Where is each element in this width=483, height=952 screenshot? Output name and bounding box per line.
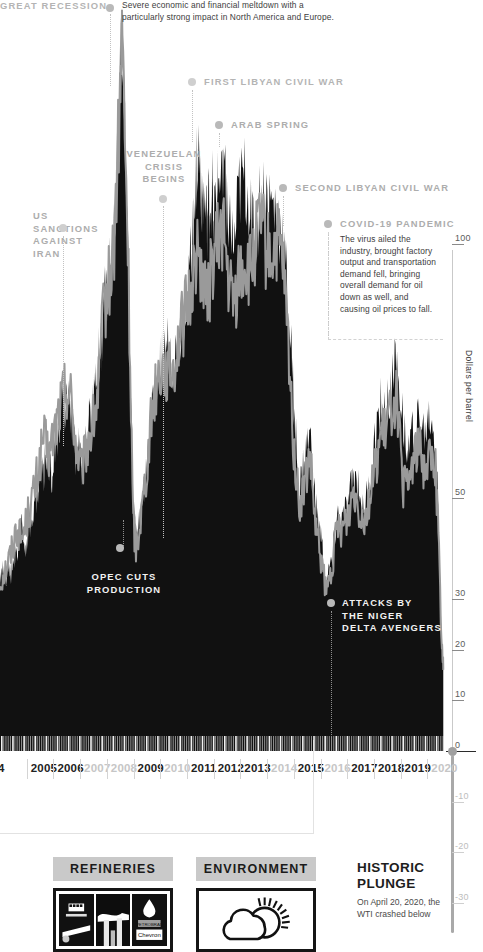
y-axis-tick-rule (452, 852, 464, 853)
smokestacks-icon (96, 894, 131, 946)
card-environment-header: ENVIRONMENT (196, 857, 316, 881)
annotation-opec-cuts-line1: OPEC CUTS (62, 571, 186, 584)
y-axis-tick-label: 50 (455, 487, 466, 497)
y-axis-tick-rule (452, 903, 464, 904)
x-axis-year-separator (321, 759, 322, 779)
annotation-niger-delta-line2: THE NIGER (342, 610, 462, 623)
y-axis-tick-rule (452, 244, 464, 245)
annotation-niger-delta-line3: DELTA AVENGERS (342, 622, 462, 635)
x-axis-year-separator (374, 759, 375, 779)
annotation-opec-cuts-line2: PRODUCTION (62, 584, 186, 597)
card-refineries-header: REFINERIES (53, 857, 173, 881)
historic-plunge-title-line1: HISTORIC (357, 860, 424, 875)
card-refineries[interactable]: REFINERIES (53, 857, 173, 952)
chevron-logo-icon: PETROBRAS Chevron (132, 894, 167, 946)
annotation-venezuelan-crisis-line3: BEGINS (110, 173, 218, 186)
annotation-second-libyan: SECOND LIBYAN CIVIL WAR (295, 182, 449, 195)
card-environment-figure (196, 888, 316, 952)
y-axis-title: Dollars per barrel (464, 350, 474, 422)
y-axis-tick-rule (452, 498, 464, 499)
event-dot-arab-spring[interactable] (215, 121, 223, 129)
event-dot-second-libyan[interactable] (279, 184, 287, 192)
annotation-us-sanctions-line4: IRAN (33, 248, 113, 261)
historic-plunge-title-line2: PLUNGE (357, 876, 416, 891)
svg-text:Chevron: Chevron (138, 932, 161, 938)
y-axis-tick-rule (452, 650, 464, 651)
annotation-great-recession: GREAT RECESSION (0, 0, 104, 13)
y-axis-tick-label: 10 (455, 689, 466, 699)
y-axis-tick-label: -10 (455, 791, 469, 801)
lower-section-frame (0, 740, 314, 834)
event-dot-first-libyan[interactable] (188, 78, 196, 86)
annotation-niger-delta-line1: ATTACKS BY (342, 597, 462, 610)
annotation-covid-body-wrap: The virus ailed the industry, brought fa… (340, 234, 440, 315)
stem-venezuelan-crisis (163, 206, 164, 538)
y-axis-tick-label: 0 (455, 740, 460, 750)
cloud-sun-icon (202, 894, 310, 946)
annotation-great-recession-body-wrap: Severe economic and financial meltdown w… (122, 0, 337, 23)
historic-plunge-body: On April 20, 2020, the WTI crashed below (357, 896, 453, 920)
y-axis-spine (452, 250, 453, 755)
annotation-venezuelan-crisis: VENEZUELAN CRISIS BEGINS (110, 148, 218, 186)
annotation-great-recession-body: Severe economic and financial meltdown w… (122, 0, 337, 23)
svg-text:PETROBRAS: PETROBRAS (136, 922, 163, 927)
event-dot-venezuelan-crisis[interactable] (159, 195, 167, 203)
event-dot-us-sanctions[interactable] (59, 224, 67, 232)
annotation-covid-title: COVID-19 PANDEMIC (340, 218, 446, 231)
stem-great-recession (110, 14, 111, 86)
card-environment[interactable]: ENVIRONMENT (196, 857, 316, 952)
event-dot-covid[interactable] (324, 220, 332, 228)
petrobras-logo-icon (59, 894, 94, 946)
stem-opec-cuts (123, 520, 124, 548)
stem-us-sanctions (63, 236, 64, 446)
annotation-first-libyan-title: FIRST LIBYAN CIVIL WAR (204, 76, 344, 89)
stem-second-libyan (283, 196, 284, 226)
annotation-us-sanctions-line3: AGAINST (33, 235, 113, 248)
event-dot-opec-cuts[interactable] (116, 544, 124, 552)
y-axis-tick-rule (452, 599, 464, 600)
annotation-covid: COVID-19 PANDEMIC (340, 218, 446, 231)
annotation-us-sanctions-line2: SANCTIONS (33, 223, 113, 236)
chart-svg (0, 0, 446, 755)
y-axis-tick-label: 30 (455, 588, 466, 598)
x-axis-year-separator (347, 759, 348, 779)
annotation-venezuelan-crisis-line1: VENEZUELAN (110, 148, 218, 161)
stem-arab-spring (219, 133, 220, 147)
event-dot-niger-delta[interactable] (327, 599, 335, 607)
y-axis-tick-rule (452, 751, 464, 752)
annotation-first-libyan: FIRST LIBYAN CIVIL WAR (204, 76, 344, 89)
annotation-us-sanctions: US SANCTIONS AGAINST IRAN (33, 210, 113, 260)
annotation-great-recession-title: GREAT RECESSION (0, 0, 104, 13)
stem-first-libyan (192, 90, 193, 142)
y-axis-tick-label: 100 (455, 233, 471, 243)
event-dot-great-recession[interactable] (106, 4, 114, 12)
y-axis-tick-label: -30 (455, 892, 469, 902)
y-axis-tick-rule (452, 700, 464, 701)
annotation-arab-spring-title: ARAB SPRING (231, 119, 309, 132)
annotation-us-sanctions-line1: US (33, 210, 113, 223)
oil-price-chart (0, 0, 446, 755)
y-axis-tick-label: 20 (455, 639, 466, 649)
annotation-venezuelan-crisis-line2: CRISIS (110, 161, 218, 174)
annotation-niger-delta: ATTACKS BY THE NIGER DELTA AVENGERS (342, 597, 462, 635)
annotation-arab-spring: ARAB SPRING (231, 119, 309, 132)
historic-plunge-block: HISTORIC PLUNGE On April 20, 2020, the W… (357, 860, 453, 920)
x-axis-year-separator (401, 759, 402, 779)
historic-plunge-title: HISTORIC PLUNGE (357, 860, 453, 891)
x-axis-year-separator (427, 759, 428, 779)
y-axis-tick-label: -20 (455, 841, 469, 851)
annotation-opec-cuts: OPEC CUTS PRODUCTION (62, 571, 186, 596)
x-axis-year-label: 2020 (431, 762, 457, 774)
card-refineries-figure: PETROBRAS Chevron (53, 888, 173, 952)
annotation-covid-body: The virus ailed the industry, brought fa… (340, 234, 440, 315)
stem-niger-delta (331, 611, 332, 751)
annotation-second-libyan-title: SECOND LIBYAN CIVIL WAR (295, 182, 449, 195)
y-axis-tick-rule (452, 802, 464, 803)
